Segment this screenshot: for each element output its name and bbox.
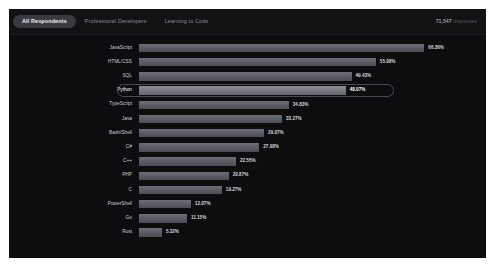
bar-track: 12.07%	[139, 197, 466, 211]
bar	[139, 86, 346, 94]
bar-track: 20.87%	[139, 169, 466, 183]
bar	[139, 186, 222, 194]
bar-category-label: JavaScript	[31, 46, 139, 51]
bar-row[interactable]: Go11.15%	[9, 211, 486, 225]
bar-category-label: C#	[31, 145, 139, 150]
bar-row[interactable]: C19.27%	[9, 183, 486, 197]
screenshot-root: All Respondents Professional Developers …	[0, 0, 495, 273]
bar-track: 22.55%	[139, 155, 466, 169]
bar	[139, 101, 289, 109]
responses-number: 71,547	[436, 18, 452, 24]
bar-value-label: 55.08%	[380, 60, 396, 65]
chart-panel: All Respondents Professional Developers …	[9, 9, 486, 258]
bar-value-label: 11.15%	[191, 216, 206, 221]
bar-row[interactable]: Java33.27%	[9, 112, 486, 126]
bar-category-label: Java	[31, 117, 139, 122]
bar-value-label: 27.98%	[263, 145, 279, 150]
bar	[139, 58, 376, 66]
bar-value-label: 20.87%	[233, 173, 249, 178]
bar-category-label: TypeScript	[31, 102, 139, 107]
bar-track: 34.83%	[139, 98, 466, 112]
bar	[139, 172, 229, 180]
bar-row[interactable]: Python48.07%	[9, 84, 486, 98]
bar-track: 27.98%	[139, 140, 466, 154]
bar-row[interactable]: C#27.98%	[9, 140, 486, 154]
tab-professional-developers[interactable]: Professional Developers	[76, 15, 156, 28]
bar-value-label: 48.07%	[350, 88, 366, 93]
bar-category-label: C	[31, 188, 139, 193]
horizontal-bar-chart: JavaScript66.36%HTML/CSS55.08%SQL49.43%P…	[9, 34, 486, 258]
bar-category-label: Bash/Shell	[31, 131, 139, 136]
bar-value-label: 29.07%	[268, 131, 284, 136]
bar-value-label: 5.32%	[166, 230, 179, 235]
bar-track: 11.15%	[139, 211, 466, 225]
bar-track: 48.07%	[139, 84, 466, 98]
bar-value-label: 22.55%	[240, 159, 256, 164]
bar-value-label: 34.83%	[293, 103, 309, 108]
bar-track: 5.32%	[139, 225, 466, 239]
bar-category-label: Rust	[31, 230, 139, 235]
bar	[139, 157, 236, 165]
bar-row[interactable]: PHP20.87%	[9, 169, 486, 183]
bar	[139, 228, 162, 236]
tab-all-respondents[interactable]: All Respondents	[13, 15, 76, 28]
bar-track: 19.27%	[139, 183, 466, 197]
bar-category-label: HTML/CSS	[31, 60, 139, 65]
bar-track: 33.27%	[139, 112, 466, 126]
bar-row[interactable]: Bash/Shell29.07%	[9, 126, 486, 140]
bar-value-label: 19.27%	[226, 188, 242, 193]
bar	[139, 200, 191, 208]
bar-category-label: Go	[31, 216, 139, 221]
bar-row[interactable]: JavaScript66.36%	[9, 41, 486, 55]
bar-row[interactable]: C++22.55%	[9, 155, 486, 169]
bar-category-label: C++	[31, 159, 139, 164]
bar-value-label: 49.43%	[356, 74, 372, 79]
tab-bar: All Respondents Professional Developers …	[9, 9, 486, 35]
bar-row[interactable]: PowerShell12.07%	[9, 197, 486, 211]
bar-track: 66.36%	[139, 41, 466, 55]
bar-value-label: 66.36%	[428, 46, 444, 51]
bar	[139, 44, 424, 52]
bar	[139, 214, 187, 222]
responses-label: responses	[453, 18, 477, 24]
bar	[139, 129, 264, 137]
bar-track: 49.43%	[139, 69, 466, 83]
responses-count: 71,547 responses	[436, 19, 477, 24]
bar	[139, 72, 352, 80]
bar-category-label: Python	[31, 88, 139, 93]
bar-category-label: PHP	[31, 173, 139, 178]
bar-row[interactable]: Rust5.32%	[9, 225, 486, 239]
bar-row[interactable]: SQL49.43%	[9, 69, 486, 83]
bar-row[interactable]: TypeScript34.83%	[9, 98, 486, 112]
bar-row[interactable]: HTML/CSS55.08%	[9, 55, 486, 69]
bar-value-label: 33.27%	[286, 117, 302, 122]
bar-category-label: PowerShell	[31, 202, 139, 207]
bar-track: 29.07%	[139, 126, 466, 140]
bar	[139, 115, 282, 123]
bar-track: 55.08%	[139, 55, 466, 69]
tab-list: All Respondents Professional Developers …	[9, 15, 217, 28]
bar-category-label: SQL	[31, 74, 139, 79]
tab-learning-to-code[interactable]: Learning to Code	[156, 15, 218, 28]
bar-value-label: 12.07%	[195, 202, 211, 207]
bar	[139, 143, 259, 151]
